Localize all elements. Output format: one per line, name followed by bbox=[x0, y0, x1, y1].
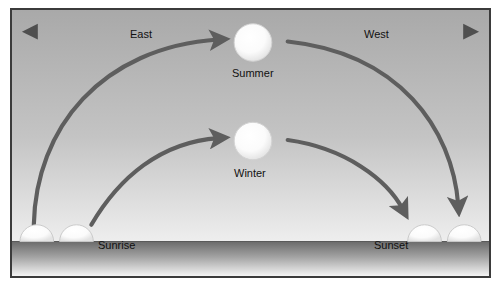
east-label: East bbox=[130, 28, 152, 40]
winter-sun bbox=[234, 122, 272, 159]
sunset-label: Sunset bbox=[374, 239, 408, 251]
west-label: West bbox=[364, 28, 389, 40]
ground-band bbox=[12, 242, 489, 276]
summer-sun bbox=[234, 24, 272, 61]
scene-graphics bbox=[12, 10, 489, 276]
summer-label: Summer bbox=[232, 67, 274, 79]
sun-path-diagram: East West Summer Winter Sunrise Sunset bbox=[0, 0, 501, 294]
sunrise-label: Sunrise bbox=[98, 239, 135, 251]
scene-frame: East West Summer Winter Sunrise Sunset bbox=[10, 8, 491, 278]
winter-label: Winter bbox=[234, 167, 266, 179]
